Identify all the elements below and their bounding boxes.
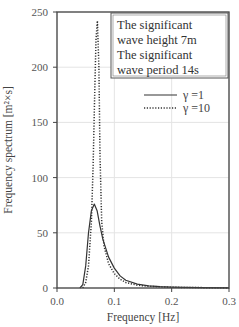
annotation-line-1: The significant <box>117 18 193 32</box>
x-tick-label: 0.1 <box>107 295 121 307</box>
y-axis-label: Frequency spectrum [m²×s] <box>2 86 15 213</box>
spectrum-chart: 0.00.10.20.3050100150200250 The signific… <box>0 0 239 327</box>
y-tick-label: 50 <box>37 227 49 239</box>
legend-label-gamma-1: γ =1 <box>182 88 204 102</box>
y-tick-label: 0 <box>43 282 49 294</box>
annotation-line-2: wave height 7m <box>117 33 197 47</box>
legend: γ =1 γ =10 <box>144 88 210 115</box>
y-tick-label: 250 <box>32 6 49 18</box>
x-tick-label: 0.3 <box>222 295 236 307</box>
annotation-line-4: wave period 14s <box>117 63 199 77</box>
annotation-line-3: The significant <box>117 48 193 62</box>
x-tick-label: 0.2 <box>165 295 179 307</box>
x-axis-label: Frequency [Hz] <box>107 311 179 324</box>
y-tick-label: 200 <box>32 61 49 73</box>
y-tick-label: 100 <box>32 172 49 184</box>
y-tick-label: 150 <box>32 116 49 128</box>
series-gamma-1-line <box>80 204 229 288</box>
annotation-box: The significant wave height 7m The signi… <box>111 13 228 78</box>
x-tick-label: 0.0 <box>50 295 64 307</box>
legend-label-gamma-10: γ =10 <box>182 101 210 115</box>
